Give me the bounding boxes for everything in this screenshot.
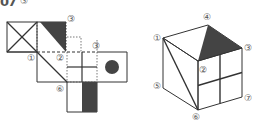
net-label-2: ② xyxy=(56,53,64,63)
net-face-x xyxy=(7,22,37,52)
net-label-3-flap: ③ xyxy=(92,41,100,51)
net-middle-row xyxy=(37,40,127,82)
cube-label-3: ③ xyxy=(244,43,252,53)
cube-label-2: ② xyxy=(199,65,207,75)
diagram-canvas: ③ ③ ① ② ⑥ ① ④ ③ ② ⑤ ⑥ ⑦ xyxy=(0,0,260,126)
cube-label-7: ⑦ xyxy=(244,93,252,103)
net-label-3-top: ③ xyxy=(67,14,75,24)
cube-net: ③ ③ ① ② ⑥ xyxy=(7,14,127,112)
net-circle-mark xyxy=(105,60,119,74)
cube-label-1: ① xyxy=(153,33,161,43)
net-flap-bracket xyxy=(67,37,81,52)
cube-label-5: ⑤ xyxy=(153,81,161,91)
net-face-shaded-triangle xyxy=(37,22,66,52)
cube-label-6: ⑥ xyxy=(192,112,200,122)
net-label-6: ⑥ xyxy=(56,84,64,94)
net-bottom-face xyxy=(67,82,97,112)
net-label-1: ① xyxy=(27,53,35,63)
cube-label-4: ④ xyxy=(203,12,211,22)
cube-3d: ① ④ ③ ② ⑤ ⑥ ⑦ xyxy=(153,12,252,122)
